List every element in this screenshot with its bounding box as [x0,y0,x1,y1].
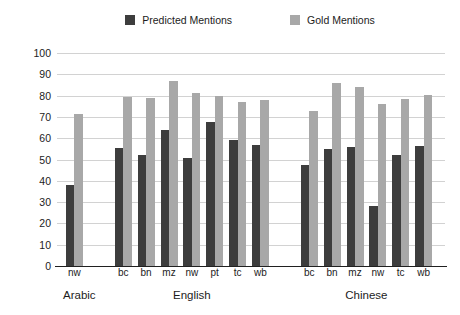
y-tick-label: 90 [39,69,51,80]
x-tick-label-chinese-nw: nw [366,268,389,278]
bar-english-nw-gold [192,93,201,266]
bar-chinese-nw-gold [378,104,387,266]
group-label-chinese: Chinese [298,290,435,302]
x-tick-label-english-wb: wb [249,268,272,278]
bar-english-nw-predicted [183,158,192,266]
bar-english-mz-predicted [161,130,170,266]
y-tick-label: 20 [39,218,51,229]
bar-chinese-bc-predicted [301,165,310,266]
group-label-english: English [112,290,272,302]
group-label-arabic: Arabic [63,290,86,302]
bar-arabic-nw-predicted [66,185,75,266]
bar-english-bn-predicted [138,155,147,266]
bar-arabic-nw-gold [74,114,83,266]
x-tick-label-chinese-bn: bn [321,268,344,278]
y-tick-label: 60 [39,133,51,144]
bar-chinese-bn-gold [332,83,341,266]
bars-layer [57,53,445,266]
legend-swatch-gold-icon [290,15,300,25]
x-tick-label-chinese-mz: mz [344,268,367,278]
legend-label-gold: Gold Mentions [307,15,375,26]
x-tick-label-chinese-tc: tc [389,268,412,278]
bar-english-tc-predicted [229,140,238,266]
bar-chinese-wb-gold [424,95,433,266]
x-tick-label-english-bc: bc [112,268,135,278]
y-tick-label: 100 [33,48,51,59]
y-tick-label: 30 [39,197,51,208]
bar-chinese-tc-predicted [392,155,401,266]
x-tick-label-english-pt: pt [203,268,226,278]
bar-chart: Predicted Mentions Gold Mentions CoNLL A… [0,0,460,315]
legend-item-predicted-mentions: Predicted Mentions [125,15,232,26]
legend-item-gold-mentions: Gold Mentions [290,15,375,26]
x-axis-labels: nwArabicbcbnmznwpttcwbEnglishbcbnmznwtcw… [57,268,445,315]
plot-area [57,53,445,266]
bar-english-wb-predicted [252,145,261,266]
bar-chinese-bc-gold [309,111,318,266]
y-tick-label: 40 [39,176,51,187]
bar-english-mz-gold [169,81,178,266]
y-tick-label: 80 [39,91,51,102]
bar-chinese-mz-predicted [347,147,356,266]
y-axis: CoNLL Average 0102030405060708090100 [0,0,57,315]
bar-chinese-nw-predicted [369,206,378,266]
bar-english-tc-gold [238,102,247,266]
bar-english-bc-predicted [115,148,124,266]
x-tick-label-english-tc: tc [226,268,249,278]
y-tick-label: 10 [39,240,51,251]
y-tick-label: 70 [39,112,51,123]
x-tick-label-english-mz: mz [158,268,181,278]
bar-chinese-mz-gold [355,87,364,266]
x-tick-label-arabic-nw: nw [63,268,86,278]
x-tick-label-english-bn: bn [135,268,158,278]
bar-english-wb-gold [260,100,269,266]
legend-swatch-predicted-icon [125,15,135,25]
bar-chinese-bn-predicted [324,149,333,266]
bar-chinese-wb-predicted [415,146,424,266]
x-tick-label-chinese-bc: bc [298,268,321,278]
bar-english-bc-gold [123,97,132,266]
x-tick-label-english-nw: nw [180,268,203,278]
legend-label-predicted: Predicted Mentions [142,15,232,26]
y-tick-label: 50 [39,155,51,166]
bar-chinese-tc-gold [401,99,410,266]
bar-english-pt-gold [215,96,224,266]
y-tick-label: 0 [45,261,51,272]
chart-legend: Predicted Mentions Gold Mentions [0,10,460,30]
bar-english-pt-predicted [206,122,215,266]
x-tick-label-chinese-wb: wb [412,268,435,278]
bar-english-bn-gold [146,98,155,266]
